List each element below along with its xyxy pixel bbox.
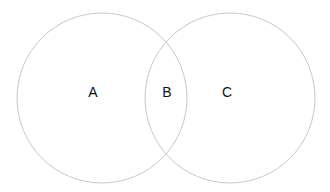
label-a: A (88, 84, 98, 100)
venn-diagram: A B C (0, 0, 330, 192)
label-c: C (222, 84, 232, 100)
label-b: B (162, 84, 171, 100)
